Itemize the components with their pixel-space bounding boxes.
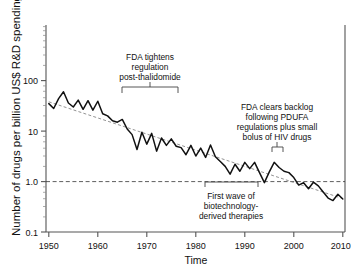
x-tick-label-2000: 2000 bbox=[284, 241, 304, 251]
y-axis-label: Number of drugs per billion US$ R&D spen… bbox=[10, 0, 22, 236]
annotation-line: derived therapies bbox=[199, 211, 263, 221]
x-tick-label-2010: 2010 bbox=[331, 241, 351, 251]
annotation-line: biotechnology- bbox=[204, 201, 259, 211]
annotation-line: First wave of bbox=[207, 191, 255, 201]
annotation-line: regulation bbox=[132, 62, 169, 72]
y-tick-label-100: 100 bbox=[23, 76, 38, 86]
annotation-line: following PDUFA bbox=[246, 112, 309, 122]
x-tick-label-1950: 1950 bbox=[39, 241, 59, 251]
annotation-bracket bbox=[122, 82, 178, 93]
annotation-line: FDA tightens bbox=[126, 52, 174, 62]
annotation-fda-thalidomide: FDA tightens regulation post-thalidomide bbox=[119, 52, 181, 93]
annotation-bracket bbox=[205, 182, 258, 187]
x-tick-label-1970: 1970 bbox=[137, 241, 157, 251]
annotation-fda-pdufa: FDA clears backlog following PDUFA regul… bbox=[237, 102, 318, 152]
x-tick-label-1960: 1960 bbox=[88, 241, 108, 251]
chart-container: Number of drugs per billion US$ R&D spen… bbox=[0, 0, 360, 270]
annotation-line: post-thalidomide bbox=[119, 72, 181, 82]
annotation-line: regulations plus small bbox=[237, 122, 318, 132]
y-axis-ticks: 100 10 1.0 0.1 bbox=[23, 76, 46, 238]
x-tick-label-1980: 1980 bbox=[186, 241, 206, 251]
x-axis-ticks: 1950 1960 1970 1980 1990 2000 2010 bbox=[39, 232, 351, 251]
eroom-law-chart: Number of drugs per billion US$ R&D spen… bbox=[0, 0, 360, 270]
y-tick-label-10: 10 bbox=[28, 127, 38, 137]
x-tick-label-1990: 1990 bbox=[235, 241, 255, 251]
y-tick-label-01: 0.1 bbox=[25, 228, 38, 238]
annotation-bracket bbox=[272, 142, 283, 152]
annotation-line: bolus of HIV drugs bbox=[243, 132, 312, 142]
annotation-biotech-wave: First wave of biotechnology- derived the… bbox=[199, 182, 263, 221]
x-axis-label: Time bbox=[185, 254, 208, 266]
annotation-line: FDA clears backlog bbox=[241, 102, 313, 112]
y-tick-label-1: 1.0 bbox=[25, 177, 38, 187]
